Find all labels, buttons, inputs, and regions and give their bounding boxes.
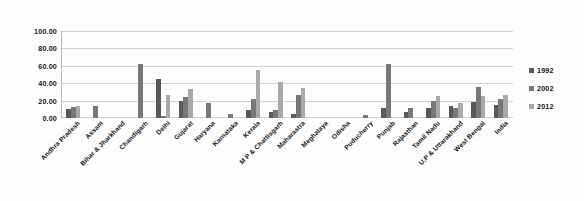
bar — [408, 108, 413, 118]
bar-group — [445, 32, 468, 118]
bar-group — [197, 32, 220, 118]
bar — [301, 88, 306, 118]
bar-group — [332, 32, 355, 118]
y-axis-tick-label: 40.00 — [38, 79, 57, 88]
bar — [278, 82, 283, 118]
bar — [363, 115, 368, 118]
bar-group — [422, 32, 445, 118]
bar-group — [130, 32, 153, 118]
bar-group — [85, 32, 108, 118]
bar-group — [107, 32, 130, 118]
y-axis-tick-label: 20.00 — [38, 96, 57, 105]
chart-legend: 199220022012 — [529, 61, 581, 115]
bar — [386, 64, 391, 118]
bar-group — [152, 32, 175, 118]
bar — [503, 95, 508, 118]
bar-groups — [62, 32, 512, 118]
y-axis-tick-label: 100.00 — [34, 27, 57, 36]
y-axis-tick-label: 80.00 — [38, 44, 57, 53]
bar — [166, 95, 171, 118]
bar — [256, 70, 261, 118]
bar — [188, 89, 193, 118]
bar — [458, 103, 463, 118]
bar — [156, 79, 161, 118]
bar — [481, 96, 486, 118]
bar-group — [467, 32, 490, 118]
bar — [206, 103, 211, 118]
bar — [138, 64, 143, 118]
bar — [436, 96, 441, 118]
legend-item[interactable]: 1992 — [529, 61, 581, 79]
bar-group — [62, 32, 85, 118]
x-axis-labels: Andhra PradeshAssamBihar & JharkhandChan… — [62, 120, 512, 201]
y-axis-tick-label: 0.00 — [42, 114, 57, 123]
legend-label: 2002 — [537, 84, 554, 93]
bar-group — [355, 32, 378, 118]
legend-swatch-icon — [529, 86, 534, 91]
bar-group — [287, 32, 310, 118]
legend-item[interactable]: 2012 — [529, 97, 581, 115]
y-axis-tick-label: 60.00 — [38, 61, 57, 70]
bar — [228, 114, 233, 118]
bar-group — [265, 32, 288, 118]
y-axis-labels: 100.0080.0060.0040.0020.000.00 — [0, 31, 57, 118]
bar-group — [377, 32, 400, 118]
legend-swatch-icon — [529, 68, 534, 73]
legend-item[interactable]: 2002 — [529, 79, 581, 97]
legend-label: 1992 — [537, 66, 554, 75]
legend-swatch-icon — [529, 104, 534, 109]
bar-group — [400, 32, 423, 118]
legend-label: 2012 — [537, 102, 554, 111]
bar — [93, 106, 98, 118]
bar-group — [310, 32, 333, 118]
bar-group — [220, 32, 243, 118]
bar-chart: 100.0080.0060.0040.0020.000.00 Andhra Pr… — [0, 0, 584, 201]
bar — [76, 106, 81, 118]
bar-group — [175, 32, 198, 118]
bar-group — [242, 32, 265, 118]
bar-group — [490, 32, 513, 118]
